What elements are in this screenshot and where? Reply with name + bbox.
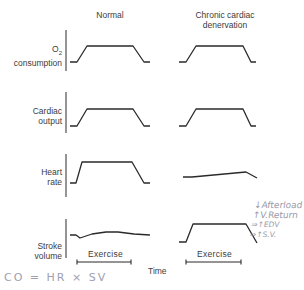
exercise-label-denervation: Exercise	[197, 249, 232, 259]
denervation-co-curve	[179, 109, 256, 126]
normal-sv-curve	[70, 232, 150, 238]
note-venous-return: ↑V.Return	[252, 210, 302, 220]
handwritten-formula: CO = HR × SV	[4, 271, 107, 284]
normal-hr-curve	[70, 162, 150, 183]
exercise-label-normal: Exercise	[88, 249, 123, 259]
x-axis-time-label: Time	[148, 266, 167, 276]
denervation-o2-curve	[179, 46, 256, 62]
note-edv: ⇒↑EDV	[251, 220, 301, 230]
note-afterload: ↓Afterload	[253, 200, 303, 210]
denervation-hr-curve	[183, 172, 257, 178]
handwritten-notes: ↓Afterload ↑V.Return ⇒↑EDV ⇒↑S.V.	[249, 200, 303, 240]
denervation-sv-curve	[179, 224, 257, 243]
normal-co-curve	[70, 109, 150, 126]
normal-o2-curve	[70, 46, 150, 62]
note-sv: ⇒↑S.V.	[249, 230, 299, 240]
diagram-curves	[0, 0, 304, 290]
